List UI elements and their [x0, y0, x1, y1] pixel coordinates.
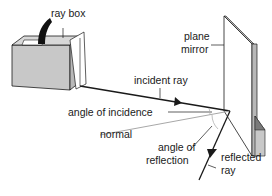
label-normal: normal [100, 128, 132, 140]
reflection-diagram: ray box plane mirror incident ray angle … [0, 0, 272, 196]
arrow-icon [207, 149, 217, 158]
label-angle-of-incidence: angle of incidence [68, 106, 153, 118]
angle-reflection-arc [212, 115, 218, 129]
label-reflection: reflection [146, 154, 189, 166]
angle-incidence-arc [209, 108, 210, 115]
label-reflected: reflected [221, 151, 261, 163]
label-ray-box: ray box [51, 7, 86, 19]
arrow-icon [174, 97, 182, 106]
label-mirror: mirror [181, 43, 209, 55]
ray-box [12, 18, 86, 90]
label-incident-ray: incident ray [134, 74, 188, 86]
label-ray: ray [221, 164, 236, 176]
label-plane: plane [184, 30, 210, 42]
label-angle-of: angle of [158, 141, 195, 153]
